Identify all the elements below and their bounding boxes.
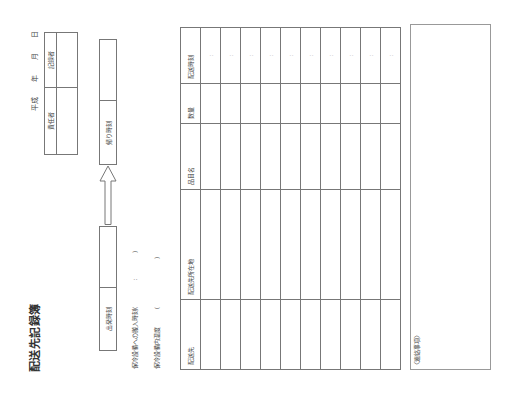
carry-in-time-line: 保冷設備への搬入時刻( : ): [130, 199, 139, 369]
quantity-cell[interactable]: [321, 84, 341, 124]
notes-box[interactable]: 〈連絡事項〉: [410, 24, 491, 370]
item-cell[interactable]: [281, 124, 301, 190]
item-cell[interactable]: [201, 124, 221, 190]
table-row: :: [281, 28, 301, 370]
table-row: :: [321, 28, 341, 370]
destination-cell[interactable]: [381, 300, 401, 370]
table-row: :: [261, 28, 281, 370]
item-cell[interactable]: [381, 124, 401, 190]
responsible-signature-field[interactable]: [57, 88, 77, 154]
notes-label: 〈連絡事項〉: [412, 332, 421, 368]
recorder-signature-field[interactable]: [57, 33, 77, 87]
time-cell[interactable]: :: [281, 28, 301, 84]
date-month-label: 月: [29, 53, 39, 60]
time-cell[interactable]: :: [341, 28, 361, 84]
return-time-box: 帰り時刻: [99, 39, 117, 165]
address-cell[interactable]: [221, 190, 241, 300]
destination-cell[interactable]: [341, 300, 361, 370]
return-time-field[interactable]: [100, 40, 116, 100]
rotated-document-page: 配送先記録簿 平成 年 月 日 責任者 記録者 出発時刻 帰り時刻 保冷設備への…: [0, 0, 516, 398]
time-cell[interactable]: :: [381, 28, 401, 84]
column-header-quantity: 数量: [181, 84, 201, 124]
date-era-label: 平成: [29, 97, 39, 111]
notes-field[interactable]: [421, 25, 490, 369]
address-cell[interactable]: [321, 190, 341, 300]
address-cell[interactable]: [241, 190, 261, 300]
time-cell[interactable]: :: [321, 28, 341, 84]
date-day-label: 日: [29, 31, 39, 38]
responsible-label: 責任者: [46, 88, 55, 154]
address-cell[interactable]: [361, 190, 381, 300]
quantity-cell[interactable]: [361, 84, 381, 124]
departure-time-field[interactable]: [100, 227, 116, 287]
item-cell[interactable]: [361, 124, 381, 190]
table-row: :: [361, 28, 381, 370]
time-cell[interactable]: :: [201, 28, 221, 84]
destination-cell[interactable]: [321, 300, 341, 370]
departure-time-label: 出発時刻: [104, 288, 113, 350]
date-line: 平成 年 月 日: [29, 31, 39, 111]
address-cell[interactable]: [301, 190, 321, 300]
destination-cell[interactable]: [241, 300, 261, 370]
quantity-cell[interactable]: [261, 84, 281, 124]
quantity-cell[interactable]: [301, 84, 321, 124]
delivery-table: 配送先 配送先所在地 品目名 数量 配送時刻 : : : : : : : : :…: [180, 27, 401, 370]
table-row: :: [201, 28, 221, 370]
address-cell[interactable]: [261, 190, 281, 300]
temperature-label: 保冷設備内温度: [153, 327, 160, 369]
time-cell[interactable]: :: [261, 28, 281, 84]
address-cell[interactable]: [341, 190, 361, 300]
time-cell[interactable]: :: [361, 28, 381, 84]
time-cell[interactable]: :: [241, 28, 261, 84]
column-header-destination: 配送先: [181, 300, 201, 370]
carry-in-time-separator: :: [131, 279, 138, 281]
recorder-label: 記録者: [46, 33, 55, 87]
departure-time-box: 出発時刻: [99, 226, 117, 351]
quantity-cell[interactable]: [201, 84, 221, 124]
destination-cell[interactable]: [301, 300, 321, 370]
time-cell[interactable]: :: [301, 28, 321, 84]
table-row: :: [301, 28, 321, 370]
destination-cell[interactable]: [361, 300, 381, 370]
table-header-row: 配送先 配送先所在地 品目名 数量 配送時刻: [181, 28, 201, 370]
temperature-line: 保冷設備内温度 ( ): [152, 199, 161, 369]
date-year-label: 年: [29, 75, 39, 82]
column-header-item: 品目名: [181, 124, 201, 190]
destination-cell[interactable]: [261, 300, 281, 370]
item-cell[interactable]: [301, 124, 321, 190]
table-row: :: [241, 28, 261, 370]
quantity-cell[interactable]: [281, 84, 301, 124]
time-cell[interactable]: :: [221, 28, 241, 84]
table-row: :: [221, 28, 241, 370]
carry-in-time-close: ): [131, 251, 138, 253]
item-cell[interactable]: [321, 124, 341, 190]
quantity-cell[interactable]: [381, 84, 401, 124]
address-cell[interactable]: [381, 190, 401, 300]
address-cell[interactable]: [201, 190, 221, 300]
table-row: :: [381, 28, 401, 370]
destination-cell[interactable]: [201, 300, 221, 370]
signoff-box: 責任者 記録者: [44, 32, 78, 155]
destination-cell[interactable]: [221, 300, 241, 370]
item-cell[interactable]: [221, 124, 241, 190]
arrow-up-icon: [99, 165, 117, 225]
column-header-address: 配送先所在地: [181, 190, 201, 300]
document-title: 配送先記録簿: [26, 303, 42, 372]
temperature-close: ): [153, 257, 160, 259]
destination-cell[interactable]: [281, 300, 301, 370]
item-cell[interactable]: [341, 124, 361, 190]
quantity-cell[interactable]: [341, 84, 361, 124]
carry-in-time-label: 保冷設備への搬入時刻(: [131, 307, 138, 369]
return-time-label: 帰り時刻: [104, 101, 113, 164]
table-row: :: [341, 28, 361, 370]
temperature-open: (: [153, 307, 160, 309]
quantity-cell[interactable]: [241, 84, 261, 124]
column-header-time: 配送時刻: [181, 28, 201, 84]
quantity-cell[interactable]: [221, 84, 241, 124]
address-cell[interactable]: [281, 190, 301, 300]
item-cell[interactable]: [241, 124, 261, 190]
item-cell[interactable]: [261, 124, 281, 190]
